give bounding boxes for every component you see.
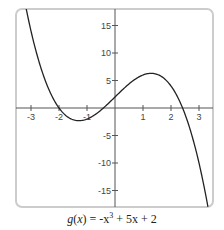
y-tick-label: -15	[98, 186, 111, 196]
x-tick-label: -3	[27, 112, 35, 122]
caption-expr-pre: -x	[99, 212, 109, 226]
caption-var: x	[77, 212, 82, 226]
y-tick-label: -10	[98, 158, 111, 168]
x-tick-label: 1	[140, 112, 145, 122]
x-tick-label: 3	[196, 112, 201, 122]
y-tick-label: 15	[101, 21, 111, 31]
function-caption: g(x) = -x3 + 5x + 2	[0, 211, 224, 227]
x-tick-label: -2	[55, 112, 63, 122]
x-tick-label: 2	[168, 112, 173, 122]
y-tick-label: -5	[103, 131, 111, 141]
function-graph: -3-2-112315105-5-10-15	[0, 0, 224, 210]
caption-func-name: g	[67, 212, 73, 226]
y-tick-label: 10	[101, 48, 111, 58]
y-tick-label: 5	[106, 76, 111, 86]
caption-expr-post: + 5x + 2	[113, 212, 157, 226]
